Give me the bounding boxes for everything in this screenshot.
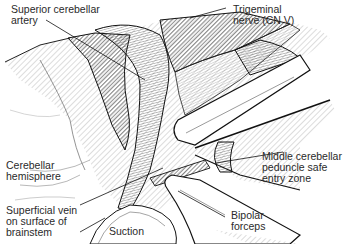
label-middle-cerebellar-peduncle: Middle cerebellar peduncle safe entry zo…	[262, 151, 342, 184]
label-cerebellar-hemisphere: Cerebellar hemisphere	[6, 160, 61, 182]
label-bipolar-forceps: Bipolar forceps	[231, 210, 265, 232]
label-suction: Suction	[109, 226, 144, 237]
label-trigeminal-nerve: Trigeminal nerve (CN V)	[233, 4, 294, 26]
label-superior-cerebellar-artery: Superior cerebellar artery	[11, 4, 100, 26]
label-superficial-vein: Superficial vein on surface of brainstem	[6, 205, 77, 238]
